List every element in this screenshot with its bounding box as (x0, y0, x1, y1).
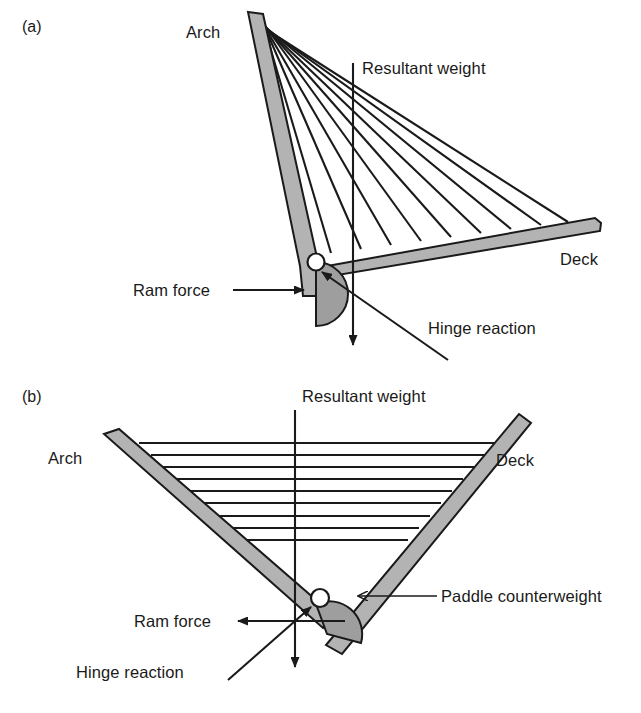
resultant-weight-label-b: Resultant weight (302, 387, 426, 405)
hinge-pin-b (311, 589, 329, 607)
arch-label-b: Arch (48, 449, 82, 467)
ram-force-label-a: Ram force (133, 281, 210, 299)
ram-force-label-b: Ram force (134, 612, 211, 630)
figure-root: (a) Resultant weight Hinge reaction (0, 0, 641, 713)
paddle-counterweight-label: Paddle counterweight (441, 587, 602, 605)
hinge-pin-a (308, 254, 325, 271)
deck-label-b: Deck (496, 451, 535, 469)
hinge-reaction-label-b: Hinge reaction (76, 663, 184, 681)
resultant-weight-label-a: Resultant weight (362, 59, 486, 77)
hinge-reaction-label-a: Hinge reaction (428, 319, 536, 337)
deck-label-a: Deck (560, 250, 599, 268)
panel-a-tag: (a) (22, 18, 42, 35)
engineering-diagram-svg: (a) Resultant weight Hinge reaction (0, 0, 641, 713)
panel-b-tag: (b) (22, 388, 42, 405)
arch-label-a: Arch (186, 23, 220, 41)
